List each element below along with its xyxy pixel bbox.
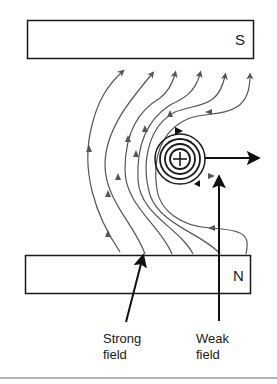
south-pole-label: S [235,31,245,48]
magnetic-field-diagram [0,0,277,384]
weak-field-label: Weak field [196,331,229,363]
weak-label-line1: Weak [196,331,229,347]
strong-field-label: Strong field [103,331,141,363]
north-pole-label: N [233,267,244,284]
wire [155,134,205,184]
field-lines [88,72,250,254]
south-magnet [28,21,254,59]
strong-label-line2: field [103,347,141,363]
circulation-arrow-bottom [194,180,200,187]
weak-label-line2: field [196,347,229,363]
strong-label-line1: Strong [103,331,141,347]
